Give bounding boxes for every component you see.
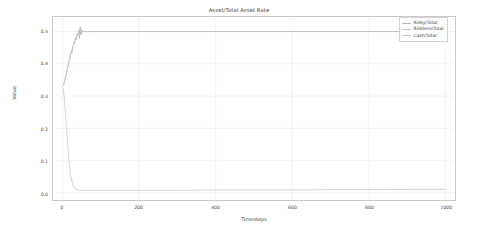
x-axis-tick-labels: 02004006008001000 — [52, 205, 456, 215]
series-line — [63, 27, 446, 86]
legend-color-swatch — [402, 35, 411, 36]
series-line — [63, 28, 446, 86]
legend-color-swatch — [402, 29, 411, 30]
plot-area — [52, 16, 456, 201]
x-axis-label: Timesteps — [52, 216, 456, 222]
y-tick-label: 0.2 — [28, 126, 48, 131]
data-series-lines — [53, 17, 455, 200]
legend-color-swatch — [402, 23, 411, 24]
chart-title: Asset/Total Asset Rate — [0, 7, 478, 13]
y-axis-tick-labels: 0.00.10.20.30.40.5 — [26, 16, 48, 201]
chart-figure: Asset/Total Asset Rate Value 0.00.10.20.… — [0, 0, 478, 246]
x-tick-label: 800 — [349, 205, 389, 210]
x-tick-label: 400 — [196, 205, 236, 210]
x-tick-label: 0 — [42, 205, 82, 210]
chart-legend: Risky/TotalRiskless/TotalCash/Total — [399, 17, 448, 42]
x-tick-label: 600 — [272, 205, 312, 210]
y-tick-label: 0.1 — [28, 159, 48, 164]
y-tick-label: 0.5 — [28, 28, 48, 33]
y-axis-label: Value — [11, 86, 17, 100]
y-tick-label: 0.0 — [28, 191, 48, 196]
legend-label: Cash/Total — [414, 33, 437, 39]
y-tick-label: 0.4 — [28, 61, 48, 66]
series-line — [63, 86, 446, 190]
legend-item[interactable]: Cash/Total — [402, 33, 444, 39]
x-tick-label: 200 — [119, 205, 159, 210]
x-tick-label: 1000 — [426, 205, 466, 210]
y-tick-label: 0.3 — [28, 93, 48, 98]
